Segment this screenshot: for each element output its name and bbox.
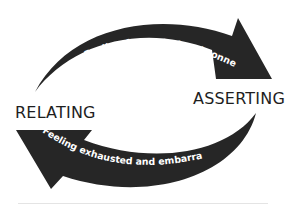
arrow-relating-to-asserting xyxy=(35,18,272,92)
node-relating: RELATING xyxy=(15,103,96,122)
divider-line xyxy=(18,203,268,204)
node-asserting: ASSERTING xyxy=(193,89,285,108)
arrow-asserting-to-relating xyxy=(16,113,256,189)
